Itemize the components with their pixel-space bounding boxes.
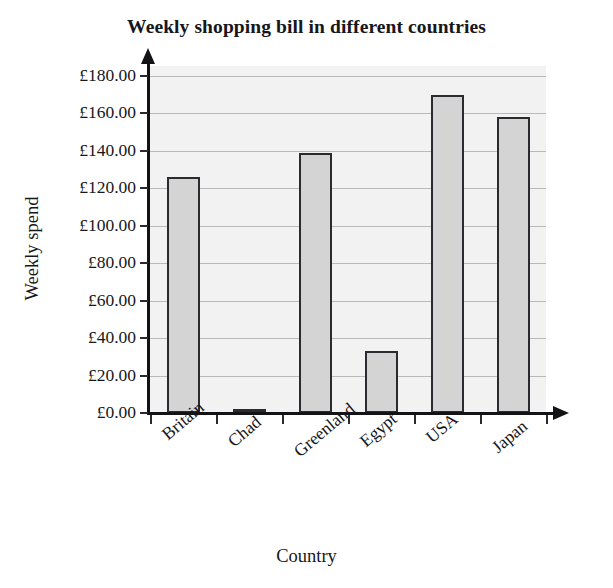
gridline: [150, 76, 546, 77]
y-axis-tick-label: £160.00: [50, 104, 136, 122]
y-axis-tick: [140, 375, 148, 377]
x-axis-tick: [216, 415, 218, 424]
y-axis-title: Weekly spend: [22, 174, 43, 324]
x-axis-tick: [546, 415, 548, 424]
bar: [497, 117, 530, 413]
bar: [167, 177, 200, 413]
gridline: [150, 376, 546, 377]
y-axis-tick-label: £80.00: [50, 254, 136, 272]
y-axis-tick-label: £120.00: [50, 179, 136, 197]
y-axis-tick: [140, 187, 148, 189]
y-axis-tick: [140, 337, 148, 339]
x-axis-tick: [282, 415, 284, 424]
gridline: [150, 188, 546, 189]
gridline: [150, 113, 546, 114]
x-axis-tick: [150, 415, 152, 424]
x-axis-arrow-icon: [553, 406, 569, 420]
plot-area: [150, 66, 546, 413]
y-axis-tick-label: £100.00: [50, 217, 136, 235]
y-axis-tick: [140, 300, 148, 302]
bar: [431, 95, 464, 413]
gridline: [150, 226, 546, 227]
x-axis-tick-label: Egypt: [357, 410, 400, 450]
y-axis-tick: [140, 112, 148, 114]
y-axis-tick-label: £140.00: [50, 142, 136, 160]
y-axis-line: [147, 62, 150, 415]
x-axis-tick-label: Chad: [225, 413, 265, 450]
y-axis-tick: [140, 262, 148, 264]
y-axis-tick-label: £20.00: [50, 367, 136, 385]
bar: [299, 153, 332, 413]
y-axis-tick-label: £0.00: [50, 404, 136, 422]
y-axis-tick: [140, 412, 148, 414]
y-axis-tick: [140, 75, 148, 77]
bar: [365, 351, 398, 413]
gridline: [150, 151, 546, 152]
y-axis-tick-label: £40.00: [50, 329, 136, 347]
y-axis-arrow-icon: [141, 48, 155, 64]
gridline: [150, 263, 546, 264]
x-axis-title: Country: [0, 546, 613, 567]
x-axis-tick: [414, 415, 416, 424]
gridline: [150, 338, 546, 339]
y-axis-tick: [140, 150, 148, 152]
y-axis-tick-labels: £180.00£160.00£140.00£120.00£100.00£80.0…: [48, 0, 136, 588]
y-axis-tick-label: £60.00: [50, 292, 136, 310]
gridline: [150, 301, 546, 302]
y-axis-tick: [140, 225, 148, 227]
x-axis-tick: [480, 415, 482, 424]
x-axis-tick-label: Japan: [489, 417, 531, 456]
bar-chart: Weekly shopping bill in different countr…: [0, 0, 613, 588]
x-axis-tick-label: USA: [423, 410, 461, 446]
y-axis-tick-label: £180.00: [50, 67, 136, 85]
